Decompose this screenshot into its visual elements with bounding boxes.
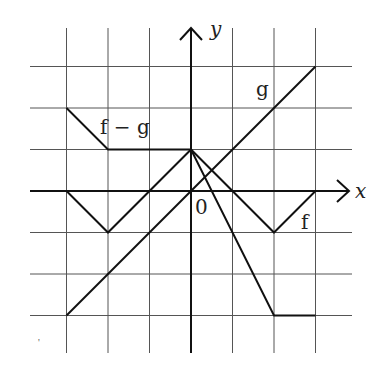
origin-label: 0 bbox=[195, 195, 208, 219]
y-axis-label: y bbox=[209, 17, 222, 41]
function-graph: x y 0 g f − g f ' bbox=[0, 0, 385, 378]
f-label: f bbox=[301, 210, 310, 234]
stray-mark: ' bbox=[38, 337, 40, 348]
f-minus-g-label: f − g bbox=[100, 115, 150, 139]
x-axis-label: x bbox=[355, 179, 366, 203]
g-label: g bbox=[256, 77, 269, 101]
